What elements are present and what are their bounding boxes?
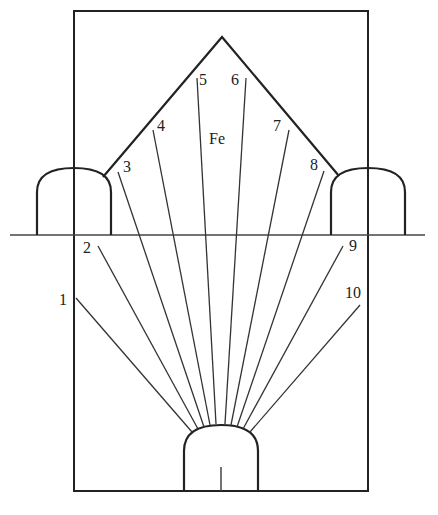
- blasthole-6: [225, 78, 246, 424]
- blasthole-9: [243, 246, 343, 429]
- blasthole-1: [76, 298, 192, 432]
- blasthole-10: [250, 305, 360, 432]
- stope-boundary: [74, 11, 368, 491]
- blasthole-diagram: 1 2 3 4 5 6 7 8 9 10 Fe: [0, 0, 438, 515]
- blasthole-8: [237, 171, 324, 427]
- blasthole-3: [118, 172, 204, 427]
- blasthole-4: [153, 130, 210, 425]
- blasthole-2: [98, 246, 198, 429]
- hole-label-10: 10: [345, 284, 361, 301]
- hole-label-1: 1: [59, 291, 67, 308]
- hole-label-5: 5: [199, 71, 207, 88]
- hole-label-6: 6: [231, 71, 239, 88]
- hole-label-3: 3: [123, 158, 131, 175]
- hole-label-9: 9: [349, 237, 357, 254]
- ore-label: Fe: [209, 130, 225, 147]
- hole-label-7: 7: [273, 117, 281, 134]
- hole-label-2: 2: [83, 239, 91, 256]
- hole-label-4: 4: [157, 117, 165, 134]
- hole-label-8: 8: [310, 156, 318, 173]
- orebody-roof-outline: [103, 37, 339, 177]
